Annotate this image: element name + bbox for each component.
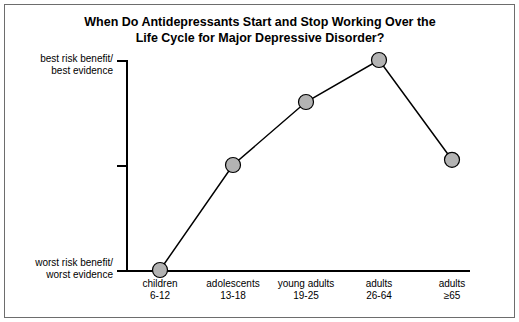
x-axis-label-adults-65: adults ≥65: [409, 278, 495, 302]
data-point-0: [153, 263, 168, 278]
data-point-4: [445, 152, 460, 167]
y-axis-label-worst-line-2: worst evidence: [0, 269, 113, 281]
chart-figure: When Do Antidepressants Start and Stop W…: [0, 0, 519, 322]
chart-title: When Do Antidepressants Start and Stop W…: [50, 14, 470, 46]
x-axis-label-adults-65-line-2: ≥65: [409, 290, 495, 302]
y-axis-label-best: best risk benefit/ best evidence: [0, 53, 113, 77]
y-axis-label-worst: worst risk benefit/ worst evidence: [0, 257, 113, 281]
data-point-1: [226, 158, 241, 173]
plot-area: best risk benefit/ best evidence worst r…: [126, 60, 470, 272]
y-axis-label-best-line-1: best risk benefit/: [0, 53, 113, 65]
chart-title-line-2: Life Cycle for Major Depressive Disorder…: [50, 30, 470, 46]
x-axis-label-adults-65-line-1: adults: [409, 278, 495, 290]
series-line: [160, 60, 452, 270]
y-axis-label-best-line-2: best evidence: [0, 65, 113, 77]
data-point-3: [372, 53, 387, 68]
data-point-2: [299, 95, 314, 110]
series-markers: [153, 53, 460, 278]
chart-title-line-1: When Do Antidepressants Start and Stop W…: [84, 15, 435, 29]
series-line-and-markers: [126, 60, 470, 272]
y-axis-label-worst-line-1: worst risk benefit/: [0, 257, 113, 269]
